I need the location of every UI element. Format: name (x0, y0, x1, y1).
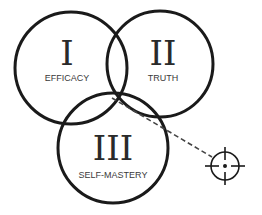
numeral-ii: II (150, 33, 177, 73)
numeral-iii: III (93, 128, 133, 168)
venn-diagram: I EFFICACY II TRUTH III SELF-MASTERY (0, 0, 262, 215)
label-efficacy: EFFICACY (45, 73, 90, 83)
numeral-i: I (60, 33, 73, 73)
label-self-mastery: SELF-MASTERY (79, 170, 148, 180)
label-truth: TRUTH (148, 73, 179, 83)
crosshair-icon (205, 147, 245, 185)
